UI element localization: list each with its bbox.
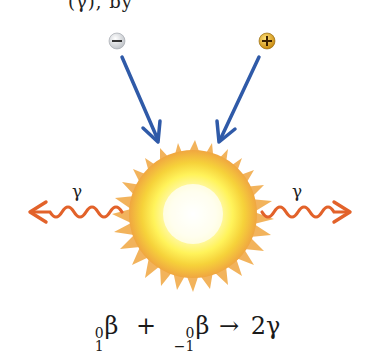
gamma-label-left: γ bbox=[72, 181, 82, 201]
gamma-label-right: γ bbox=[292, 181, 302, 201]
plus-sign: + bbox=[136, 312, 156, 340]
annihilation-diagram bbox=[0, 0, 375, 353]
product-photons: 2γ bbox=[251, 312, 281, 340]
annihilation-burst bbox=[112, 140, 274, 292]
photon-left-arrow bbox=[30, 202, 122, 222]
beta-symbol: β bbox=[105, 312, 119, 340]
electron-icon bbox=[109, 33, 125, 49]
atomic-number: −1 bbox=[174, 340, 195, 353]
positron-arrow bbox=[217, 57, 259, 142]
annihilation-equation: 0 1 β + 0 −1 β → 2γ bbox=[0, 312, 375, 353]
beta-symbol: β bbox=[195, 312, 209, 340]
electron-nuclide: 0 −1 β bbox=[174, 312, 210, 353]
reaction-arrow: → bbox=[219, 312, 239, 340]
photon-right-arrow bbox=[262, 202, 350, 222]
atomic-number: 1 bbox=[95, 340, 104, 353]
positron-icon bbox=[259, 33, 275, 49]
electron-arrow bbox=[122, 57, 160, 142]
positron-nuclide: 0 1 β bbox=[95, 312, 119, 353]
